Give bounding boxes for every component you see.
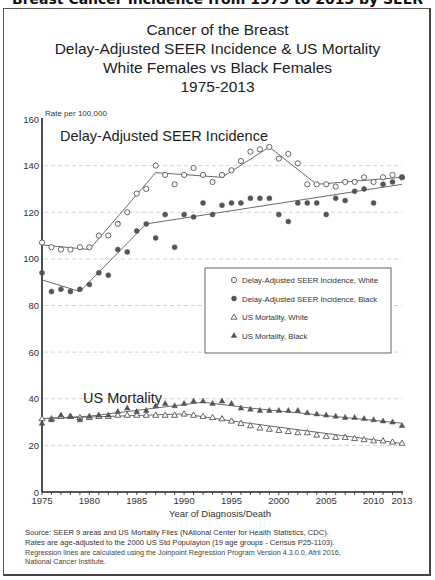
y-axis-label: Rate per 100,000	[45, 109, 107, 118]
data-point-open-circle	[371, 179, 376, 184]
data-point-open-triangle	[399, 440, 405, 445]
data-point-filled-triangle	[295, 407, 301, 412]
x-tick-label: 2005	[316, 495, 337, 506]
data-point-open-circle	[257, 147, 262, 152]
data-point-open-circle	[231, 277, 236, 282]
y-tick-label: 80	[28, 300, 39, 311]
y-tick-label: 60	[28, 347, 39, 358]
data-point-filled-circle	[324, 212, 329, 217]
data-point-filled-triangle	[276, 407, 282, 412]
data-point-open-triangle	[200, 413, 206, 418]
data-point-open-circle	[191, 165, 196, 170]
data-point-filled-circle	[295, 200, 300, 205]
data-point-open-circle	[163, 172, 168, 177]
data-point-filled-triangle	[380, 418, 386, 423]
data-point-open-circle	[210, 179, 215, 184]
data-point-filled-circle	[220, 203, 225, 208]
data-point-filled-circle	[182, 212, 187, 217]
data-point-filled-circle	[191, 214, 196, 219]
data-point-open-circle	[68, 247, 73, 252]
data-point-open-circle	[305, 182, 310, 187]
data-point-open-circle	[314, 182, 319, 187]
y-tick-label: 140	[23, 160, 39, 171]
data-point-filled-circle	[87, 282, 92, 287]
data-point-open-circle	[172, 182, 177, 187]
data-point-filled-circle	[314, 200, 319, 205]
data-point-open-triangle	[276, 427, 282, 432]
data-point-open-circle	[77, 245, 82, 250]
data-point-filled-circle	[381, 182, 386, 187]
data-point-open-circle	[49, 245, 54, 250]
data-point-open-triangle	[257, 425, 263, 430]
chart-plot: 0204060801001201401601975198019851990199…	[0, 0, 435, 580]
data-point-filled-circle	[163, 212, 168, 217]
data-point-open-circle	[238, 158, 243, 163]
data-point-filled-circle	[144, 221, 149, 226]
data-point-filled-triangle	[257, 407, 263, 412]
data-point-filled-circle	[96, 270, 101, 275]
data-point-filled-circle	[210, 212, 215, 217]
data-point-filled-circle	[115, 247, 120, 252]
x-tick-label: 1985	[126, 495, 147, 506]
data-point-filled-circle	[232, 296, 237, 301]
x-tick-label: 1990	[174, 495, 195, 506]
data-point-filled-circle	[362, 186, 367, 191]
data-point-open-circle	[125, 210, 130, 215]
data-point-open-circle	[182, 172, 187, 177]
data-point-open-triangle	[266, 426, 272, 431]
legend-label: Delay-Adjusted SEER Incidence, White	[242, 276, 378, 285]
x-tick-label: 2010	[363, 495, 384, 506]
data-point-open-circle	[134, 191, 139, 196]
data-point-filled-triangle	[314, 411, 320, 416]
data-point-filled-triangle	[352, 414, 358, 419]
data-point-open-circle	[362, 175, 367, 180]
data-point-filled-circle	[106, 273, 111, 278]
x-tick-label: 2013	[391, 495, 412, 506]
data-point-filled-circle	[229, 200, 234, 205]
data-point-filled-triangle	[229, 400, 235, 405]
data-point-filled-triangle	[304, 410, 310, 415]
data-point-open-circle	[390, 172, 395, 177]
data-point-open-circle	[248, 149, 253, 154]
data-point-open-circle	[229, 168, 234, 173]
data-point-filled-circle	[77, 287, 82, 292]
y-tick-label: 100	[23, 253, 39, 264]
data-point-open-circle	[58, 247, 63, 252]
legend-label: US Mortality, Black	[242, 332, 307, 341]
y-tick-label: 20	[28, 440, 39, 451]
data-point-open-circle	[106, 233, 111, 238]
data-point-open-circle	[286, 151, 291, 156]
data-point-filled-circle	[286, 219, 291, 224]
legend-label: US Mortality, White	[242, 313, 308, 322]
data-point-filled-triangle	[286, 407, 292, 412]
data-point-filled-circle	[333, 196, 338, 201]
data-point-filled-circle	[68, 289, 73, 294]
data-point-filled-circle	[343, 198, 348, 203]
data-point-filled-circle	[305, 200, 310, 205]
data-point-filled-circle	[201, 200, 206, 205]
data-point-open-triangle	[124, 412, 130, 417]
x-tick-label: 1995	[221, 495, 242, 506]
data-point-open-circle	[219, 172, 224, 177]
data-point-open-circle	[200, 172, 205, 177]
data-point-filled-circle	[267, 196, 272, 201]
incidence-annotation: Delay-Adjusted SEER Incidence	[60, 128, 268, 144]
data-point-filled-circle	[238, 200, 243, 205]
data-point-filled-circle	[371, 200, 376, 205]
data-point-filled-circle	[49, 289, 54, 294]
data-point-open-circle	[267, 144, 272, 149]
data-point-open-circle	[87, 245, 92, 250]
data-point-open-triangle	[342, 434, 348, 439]
data-point-open-circle	[324, 182, 329, 187]
footnote-regression: Regression lines are calculated using th…	[25, 548, 341, 557]
data-point-open-circle	[343, 179, 348, 184]
data-point-filled-circle	[390, 179, 395, 184]
data-point-filled-triangle	[323, 412, 329, 417]
data-point-open-circle	[39, 240, 44, 245]
x-tick-label: 1975	[31, 495, 52, 506]
x-tick-label: 1980	[79, 495, 100, 506]
data-point-open-circle	[380, 175, 385, 180]
y-tick-label: 120	[23, 207, 39, 218]
data-point-filled-circle	[153, 235, 158, 240]
data-point-open-triangle	[210, 414, 216, 419]
